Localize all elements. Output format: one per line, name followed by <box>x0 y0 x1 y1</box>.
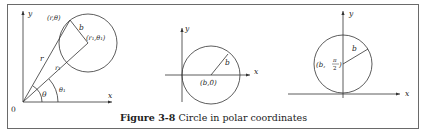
center-prefix: (b, <box>316 61 325 69</box>
x-label: x <box>405 89 410 98</box>
panel-circle-x-axis <box>165 28 250 104</box>
x-label: x <box>254 67 259 76</box>
theta1-arc <box>49 79 58 102</box>
r1-line <box>23 43 88 102</box>
theta-label: θ <box>42 90 47 99</box>
x-label: x <box>108 91 113 100</box>
theta1-label: θ₁ <box>59 86 66 94</box>
point-label: (r,θ) <box>47 14 61 22</box>
center-suffix: ) <box>338 61 342 69</box>
b-label: b <box>352 44 357 53</box>
pi-label: π <box>332 57 337 63</box>
r-label: r <box>40 54 44 63</box>
center-label: (b,0) <box>200 79 217 87</box>
b-label: b <box>79 23 84 32</box>
figure-caption: Figure 3-8 Circle in polar coordinates <box>0 112 427 123</box>
center-label: (r₁,θ₁) <box>86 34 106 42</box>
r1-label: r₁ <box>55 64 61 72</box>
y-label: y <box>27 9 33 18</box>
y-label: y <box>184 24 190 33</box>
figure-title: Circle in polar coordinates <box>178 112 307 123</box>
panel-general-labels: y x 0 (r,θ) (r₁,θ₁) b r r₁ θ θ₁ <box>11 9 113 114</box>
panel-circle-y-axis <box>288 11 400 98</box>
two-label: 2 <box>333 65 337 71</box>
panel-x-axis-labels: y x b (b,0) <box>184 24 259 87</box>
panel-general-circle <box>23 11 117 102</box>
y-label: y <box>348 9 354 18</box>
b-label: b <box>225 58 230 67</box>
figure-number: Figure 3-8 <box>120 112 175 123</box>
